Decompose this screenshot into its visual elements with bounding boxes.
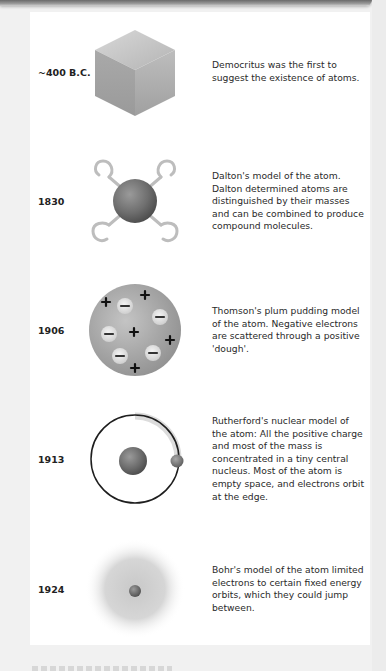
- top-shadow-bar: [0, 0, 372, 6]
- atom-timeline-panel: ~400 B.C. Democritus w: [30, 12, 370, 645]
- entry-description: Democritus was the first to suggest the …: [212, 59, 364, 84]
- entry-description: Rutherford's nuclear model of the atom: …: [212, 415, 364, 503]
- cube-icon: [85, 22, 185, 122]
- entry-year: ~400 B.C.: [38, 67, 91, 78]
- entry-description: Thomson's plum pudding model of the atom…: [212, 305, 364, 355]
- entry-year: 1924: [38, 584, 64, 595]
- entry-year: 1906: [38, 325, 64, 336]
- bohr-electron-cloud-icon: [85, 539, 185, 639]
- figure-caption-truncated: [32, 666, 172, 671]
- entry-description: Dalton's model of the atom. Dalton deter…: [212, 170, 364, 233]
- right-margin: [372, 0, 386, 671]
- rutherford-nucleus-orbit-icon: [85, 409, 185, 509]
- plum-pudding-atom-icon: [85, 280, 185, 380]
- entry-year: 1830: [38, 196, 64, 207]
- entry-year: 1913: [38, 454, 64, 465]
- dalton-atom-hooks-icon: [85, 151, 185, 251]
- entry-description: Bohr's model of the atom limited electro…: [212, 564, 364, 614]
